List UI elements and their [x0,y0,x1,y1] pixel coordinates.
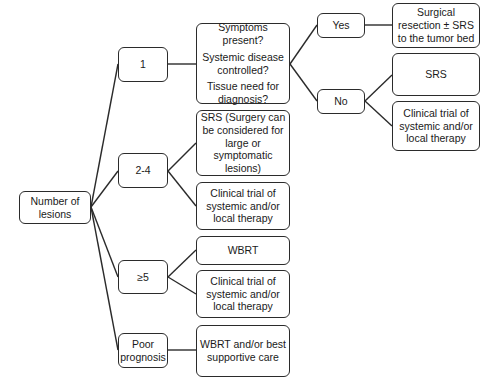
outcome-wbrt-label: WBRT [228,244,259,257]
question-tissue: Tissue need for diagnosis? [200,80,286,106]
outcome-srs: SRS [392,53,480,96]
outcome-clinical-trial-2: Clinical trial of systemic and/or local … [196,182,290,230]
question-box: Symptoms present? Systemic disease contr… [196,23,290,104]
branch-1-label: 1 [140,58,146,71]
branch-1: 1 [118,47,168,82]
answer-no-label: No [334,95,347,108]
answer-yes: Yes [317,13,365,38]
answer-no: No [317,89,365,114]
outcome-wbrt-supportive: WBRT and/or best supportive care [196,325,290,377]
outcome-wbrt-supportive-label: WBRT and/or best supportive care [200,338,286,364]
outcome-srs-surgery: SRS (Surgery can be considered for large… [196,110,290,176]
question-symptoms: Symptoms present? [200,21,286,47]
branch-5-plus-label: ≥5 [137,271,149,284]
branch-2-4-label: 2-4 [135,164,150,177]
outcome-srs-label: SRS [425,68,447,81]
branch-poor-prognosis: Poor prognosis [118,333,168,368]
branch-2-4: 2-4 [118,153,168,188]
branch-poor-prognosis-label: Poor prognosis [120,338,166,364]
outcome-clinical-trial-1: Clinical trial of systemic and/or local … [392,101,480,151]
outcome-clinical-3-label: Clinical trial of systemic and/or local … [200,275,286,313]
outcome-surgical-resection: Surgical resection ± SRS to the tumor be… [392,3,480,48]
outcome-clinical-2-label: Clinical trial of systemic and/or local … [200,187,286,225]
root-label: Number of lesions [23,195,87,221]
branch-5-plus: ≥5 [118,260,168,294]
outcome-wbrt: WBRT [196,236,290,265]
root-number-of-lesions: Number of lesions [19,191,91,224]
question-systemic: Systemic disease controlled? [200,51,286,77]
outcome-srs-surgery-label: SRS (Surgery can be considered for large… [200,111,286,175]
outcome-surgical-label: Surgical resection ± SRS to the tumor be… [396,6,476,44]
answer-yes-label: Yes [332,19,349,32]
outcome-clinical-trial-3: Clinical trial of systemic and/or local … [196,270,290,318]
outcome-clinical-1-label: Clinical trial of systemic and/or local … [396,107,476,145]
